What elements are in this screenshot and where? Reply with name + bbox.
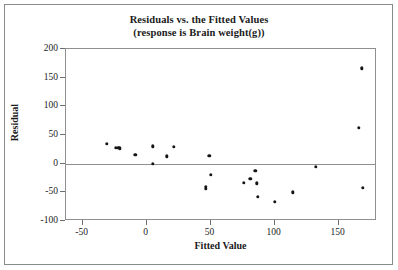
- data-point: [172, 145, 175, 148]
- data-point: [254, 169, 257, 172]
- y-axis-tick-label: 150: [18, 72, 58, 82]
- data-point: [165, 155, 168, 158]
- data-point: [361, 186, 364, 189]
- x-axis-tick: [82, 220, 83, 225]
- chart-title-block: Residuals vs. the Fitted Values (respons…: [0, 13, 398, 39]
- zero-reference-line: [66, 164, 375, 165]
- y-axis-tick-label: -100: [18, 215, 58, 225]
- y-axis-tick-label: 200: [18, 43, 58, 53]
- data-point: [118, 146, 121, 149]
- data-point: [242, 181, 245, 184]
- chart-subtitle: (response is Brain weight(g)): [0, 26, 398, 39]
- chart-title: Residuals vs. the Fitted Values: [0, 13, 398, 26]
- x-axis-tick-label: 150: [318, 227, 358, 237]
- x-axis-tick-label: 100: [254, 227, 294, 237]
- y-axis-tick-label: 0: [18, 158, 58, 168]
- x-axis-tick: [274, 220, 275, 225]
- data-point: [204, 187, 207, 190]
- y-axis-tick: [60, 220, 65, 221]
- data-point: [255, 181, 258, 184]
- x-axis-tick-label: 0: [126, 227, 166, 237]
- data-point: [291, 191, 294, 194]
- x-axis-tick: [210, 220, 211, 225]
- data-point: [314, 165, 317, 168]
- x-axis-title: Fitted Value: [65, 240, 376, 251]
- x-axis-tick: [146, 220, 147, 225]
- data-point: [273, 200, 276, 203]
- y-axis-tick-label: 100: [18, 100, 58, 110]
- data-point: [357, 126, 360, 129]
- chart-screenshot: Residuals vs. the Fitted Values (respons…: [0, 0, 398, 270]
- plot-area: [65, 48, 376, 220]
- y-axis-tick: [60, 77, 65, 78]
- y-axis-tick-label: 50: [18, 129, 58, 139]
- y-axis-tick: [60, 105, 65, 106]
- data-point: [249, 177, 252, 180]
- y-axis-tick: [60, 134, 65, 135]
- data-point: [360, 67, 363, 70]
- data-point: [256, 195, 259, 198]
- y-axis-tick-label: -50: [18, 186, 58, 196]
- data-point: [151, 162, 154, 165]
- data-point: [105, 142, 108, 145]
- data-point: [209, 173, 212, 176]
- x-axis-tick-label: -50: [62, 227, 102, 237]
- data-point: [151, 145, 154, 148]
- y-axis-tick: [60, 191, 65, 192]
- data-point: [133, 153, 136, 156]
- x-axis-tick: [338, 220, 339, 225]
- x-axis-tick-label: 50: [190, 227, 230, 237]
- y-axis-tick: [60, 48, 65, 49]
- data-point: [208, 154, 211, 157]
- y-axis-tick: [60, 163, 65, 164]
